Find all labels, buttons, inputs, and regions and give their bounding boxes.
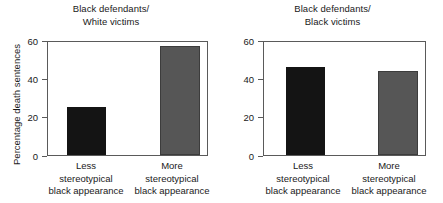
bar-less-stereotypical bbox=[67, 107, 106, 155]
x-tick-label-less: Less stereotypical black appearance bbox=[263, 160, 343, 198]
y-tick-label-0: 0 bbox=[12, 151, 38, 162]
panel-title: Black defendants/ White victims bbox=[0, 2, 222, 28]
y-tick-label-0: 0 bbox=[228, 151, 254, 162]
y-tick-label-20: 20 bbox=[12, 112, 38, 123]
y-tick-label-60: 60 bbox=[12, 36, 38, 47]
x-tick-label-more: More stereotypical black appearance bbox=[131, 160, 213, 198]
y-tick-label-60: 60 bbox=[228, 36, 254, 47]
x-tick-label-less: Less stereotypical black appearance bbox=[47, 160, 125, 198]
figure-two-panel-bar-chart: Black defendants/ White victims Percenta… bbox=[0, 0, 443, 203]
plot-area bbox=[47, 41, 208, 156]
bar-more-stereotypical bbox=[378, 71, 418, 155]
y-tick-label-20: 20 bbox=[228, 112, 254, 123]
plot-area bbox=[263, 41, 426, 156]
y-tick-label-40: 40 bbox=[12, 74, 38, 85]
bar-group bbox=[264, 42, 425, 155]
panel-black-defendants-black-victims: Black defendants/ Black victims 60 40 20… bbox=[222, 0, 443, 203]
panel-title: Black defendants/ Black victims bbox=[222, 2, 443, 28]
x-tick-label-more: More stereotypical black appearance bbox=[348, 160, 430, 198]
bar-group bbox=[48, 42, 207, 155]
bar-less-stereotypical bbox=[286, 67, 325, 155]
panel-black-defendants-white-victims: Black defendants/ White victims Percenta… bbox=[0, 0, 222, 203]
bar-more-stereotypical bbox=[160, 46, 200, 155]
y-tick-mark-0 bbox=[258, 156, 263, 157]
y-tick-mark-0 bbox=[42, 156, 47, 157]
y-tick-label-40: 40 bbox=[228, 74, 254, 85]
